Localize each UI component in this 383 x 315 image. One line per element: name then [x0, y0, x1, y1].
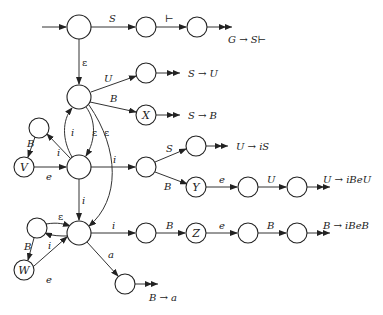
edge-label: e: [219, 220, 225, 231]
automaton-diagram: XVYWZ S ⊢ ε U B i ε ε B i e i S B e U i …: [0, 0, 383, 315]
state-node: Z: [186, 223, 206, 243]
reduction-label: S → U: [188, 68, 219, 79]
state-node: [136, 17, 156, 37]
state-node: [136, 157, 156, 177]
state-node: [27, 218, 47, 238]
state-node: [29, 118, 49, 138]
reduction-label: U → iS: [236, 141, 269, 152]
edge-label: B: [23, 241, 31, 252]
edge-label: i: [112, 220, 115, 231]
state-node: [136, 63, 156, 83]
state-node: [238, 223, 258, 243]
edge-label: ε: [104, 127, 109, 138]
state-node: W: [14, 260, 34, 280]
reduction-label: G → S⊢: [228, 34, 266, 45]
reduction-label: B → iBeB: [322, 220, 369, 231]
edge-label: B: [165, 220, 173, 231]
edge-label: B: [266, 220, 274, 231]
state-node: [115, 274, 135, 294]
state-node: [67, 155, 91, 179]
edge-label: ε: [82, 57, 87, 68]
reduction-label: S → B: [188, 110, 217, 121]
state-label: W: [18, 264, 31, 277]
state-node: [67, 85, 91, 109]
state-node: [287, 223, 307, 243]
edges: [28, 27, 330, 284]
diagram-canvas: XVYWZ S ⊢ ε U B i ε ε B i e i S B e U i …: [0, 0, 383, 315]
edge-label: S: [109, 13, 116, 24]
edge-label: S: [166, 143, 173, 154]
state-label: Z: [191, 227, 200, 240]
state-node: V: [14, 157, 34, 177]
reduction-label: B → a: [148, 292, 177, 303]
reduction-label: U → iBeU: [323, 174, 372, 185]
edge-label: i: [71, 127, 74, 138]
state-node: [287, 177, 307, 197]
edge-label: i: [113, 154, 116, 165]
edge-label: e: [46, 274, 52, 285]
state-node: X: [136, 105, 156, 125]
edge-label: a: [108, 249, 114, 260]
edge-label: U: [104, 73, 113, 84]
edge-label: ⊢: [165, 13, 174, 24]
state-label: V: [20, 161, 29, 174]
reductions: G → S⊢ S → U S → B U → iS U → iBeU B → i…: [148, 34, 372, 303]
state-node: [136, 223, 156, 243]
edge-label: B: [109, 93, 117, 104]
edge-label: B: [26, 138, 34, 149]
edge-label: B: [163, 181, 171, 192]
edge-label: e: [46, 171, 52, 182]
edge-label: e: [219, 174, 225, 185]
edge-label: i: [82, 195, 85, 206]
edge-label: i: [57, 147, 60, 158]
edge-label: ε: [92, 127, 97, 138]
state-label: X: [141, 109, 151, 122]
state-node: [238, 177, 258, 197]
edge-label: i: [48, 240, 51, 251]
edge-label: U: [267, 174, 276, 185]
state-node: [67, 15, 91, 39]
state-node: [187, 17, 207, 37]
state-node: [186, 136, 206, 156]
state-node: [67, 221, 91, 245]
edge-label: ε: [58, 211, 63, 222]
state-node: Y: [186, 177, 206, 197]
